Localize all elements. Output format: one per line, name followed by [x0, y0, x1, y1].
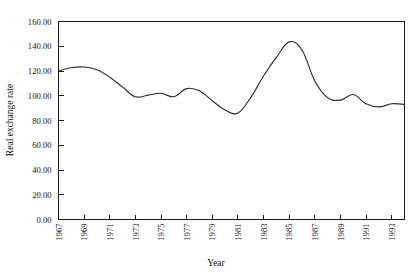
x-tick-label: 1985: [284, 224, 294, 241]
x-tick-label: 1977: [182, 223, 192, 241]
x-tick-label: 1967: [54, 223, 64, 241]
x-tick-label: 1971: [105, 224, 115, 241]
y-axis-tick-labels: 0.0020.0040.0060.0080.00100.00120.00140.…: [28, 17, 52, 225]
y-axis-title: Real exchange rate: [5, 84, 15, 156]
x-tick-label: 1991: [361, 224, 371, 241]
y-tick-label: 100.00: [28, 91, 52, 101]
x-tick-label: 1973: [131, 224, 141, 241]
chart-figure: 0.0020.0040.0060.0080.00100.00120.00140.…: [0, 0, 415, 273]
x-tick-label: 1975: [156, 224, 166, 241]
x-tick-label: 1987: [310, 223, 320, 241]
y-tick-label: 0.00: [36, 215, 51, 225]
y-axis-ticks: [59, 22, 64, 220]
x-tick-label: 1969: [79, 224, 89, 241]
x-axis-title: Year: [207, 258, 225, 268]
y-tick-label: 140.00: [28, 41, 52, 51]
x-axis-tick-labels: 1967196919711973197519771979198119831985…: [54, 223, 397, 241]
y-tick-label: 40.00: [32, 165, 51, 175]
y-tick-label: 80.00: [32, 116, 51, 126]
y-tick-label: 60.00: [32, 140, 51, 150]
x-tick-label: 1979: [207, 224, 217, 241]
y-tick-label: 160.00: [28, 17, 52, 27]
y-tick-label: 120.00: [28, 66, 52, 76]
x-tick-label: 1989: [336, 224, 346, 241]
y-tick-label: 20.00: [32, 190, 51, 200]
x-tick-label: 1983: [259, 224, 269, 241]
series-line-real-exchange-rate: [59, 42, 405, 114]
x-tick-label: 1981: [233, 224, 243, 241]
x-tick-label: 1993: [387, 224, 397, 241]
line-chart: 0.0020.0040.0060.0080.00100.00120.00140.…: [0, 0, 415, 273]
plot-frame: [59, 22, 405, 220]
x-axis-ticks: [59, 215, 392, 220]
